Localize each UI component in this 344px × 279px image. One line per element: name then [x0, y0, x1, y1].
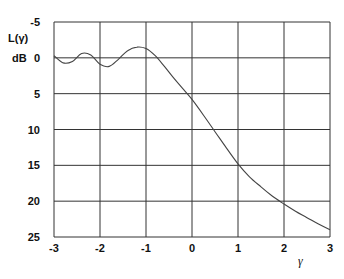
y-tick-label: 20: [28, 195, 40, 207]
x-tick-label: 0: [189, 242, 195, 254]
line-chart: -50510152025 -3-2-10123 L(γ) dB γ: [0, 0, 344, 279]
x-tick-label: -3: [49, 242, 59, 254]
x-axis-label: γ: [298, 254, 303, 268]
x-tick-label: -1: [141, 242, 151, 254]
y-tick-label: 15: [28, 159, 40, 171]
y-tick-label: 5: [34, 88, 40, 100]
x-tick-label: 2: [281, 242, 287, 254]
y-tick-label: 25: [28, 231, 40, 243]
x-tick-labels: -3-2-10123: [49, 242, 333, 254]
x-tick-label: -2: [95, 242, 105, 254]
y-axis-label: L(γ): [8, 32, 29, 44]
x-tick-label: 1: [235, 242, 241, 254]
y-tick-labels: -50510152025: [28, 16, 40, 243]
y-tick-label: 10: [28, 124, 40, 136]
y-axis-unit: dB: [12, 52, 27, 64]
y-tick-label: 0: [34, 52, 40, 64]
grid: [54, 22, 330, 237]
x-tick-label: 3: [327, 242, 333, 254]
y-tick-label: -5: [30, 16, 40, 28]
